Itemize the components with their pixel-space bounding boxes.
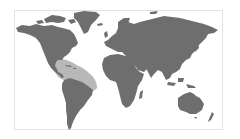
greenland: [74, 11, 100, 34]
australia: [178, 92, 204, 114]
land: [16, 11, 218, 130]
world-map: [0, 0, 240, 139]
